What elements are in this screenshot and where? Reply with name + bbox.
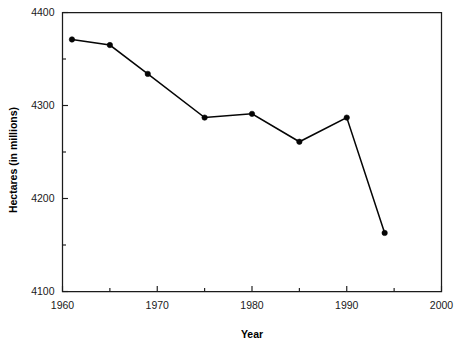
- data-point: [344, 115, 349, 120]
- y-axis-title: Hectares (in millions): [7, 107, 19, 213]
- series-line: [72, 39, 385, 232]
- chart-container: 19601970198019902000 4100420043004400 Ye…: [0, 0, 464, 348]
- y-tick-label: 4300: [31, 99, 55, 111]
- data-point: [382, 230, 387, 235]
- y-tick-label: 4100: [31, 285, 55, 297]
- y-tick-label: 4400: [31, 6, 55, 18]
- x-tick-label: 1960: [51, 299, 75, 311]
- x-tick-label: 1980: [240, 299, 264, 311]
- y-tick-labels: 4100420043004400: [31, 6, 55, 297]
- line-chart: 19601970198019902000 4100420043004400 Ye…: [0, 0, 464, 348]
- x-tick-label: 1990: [335, 299, 359, 311]
- plot-frame: [63, 13, 442, 292]
- x-axis-title: Year: [241, 328, 263, 340]
- data-point: [249, 111, 254, 116]
- x-tick-label: 1970: [146, 299, 170, 311]
- data-point: [145, 71, 150, 76]
- data-point: [107, 42, 112, 47]
- data-point: [297, 139, 302, 144]
- x-tick-label: 2000: [430, 299, 454, 311]
- y-tick-label: 4200: [31, 192, 55, 204]
- axis-ticks: [63, 13, 442, 292]
- x-tick-labels: 19601970198019902000: [51, 299, 454, 311]
- data-point: [202, 115, 207, 120]
- data-point: [69, 37, 74, 42]
- data-series: [69, 37, 387, 236]
